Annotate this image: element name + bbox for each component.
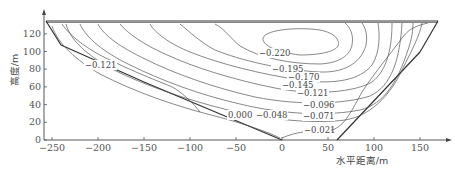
x-tick-label: 0 xyxy=(279,142,285,153)
y-tick-label: 60 xyxy=(29,81,41,92)
x-axis-arrow-icon xyxy=(446,138,452,142)
x-tick-label: −100 xyxy=(177,142,203,153)
y-axis-title: 高度/m xyxy=(9,54,20,86)
contour-label: −0.071 xyxy=(303,111,334,121)
contour-label: −0.121 xyxy=(297,88,328,98)
contour-label: −0.121 xyxy=(85,60,116,70)
y-tick-label: 80 xyxy=(29,63,41,74)
x-tick-label: −250 xyxy=(39,142,65,153)
contour-label: −0.048 xyxy=(256,110,287,120)
y-ticks: 0 20 40 60 80 100 120 xyxy=(23,28,47,145)
y-tick-label: 100 xyxy=(23,46,41,57)
contour-lines xyxy=(52,23,428,138)
contour-label: 0.000 xyxy=(228,110,252,120)
x-tick-label: 50 xyxy=(322,142,334,153)
x-tick-label: 150 xyxy=(411,142,429,153)
x-axis-title: 水平距离/m xyxy=(336,155,388,166)
x-tick-label: −50 xyxy=(226,142,246,153)
x-ticks: −250 −200 −150 −100 −50 0 50 100 150 xyxy=(39,137,429,153)
y-tick-label: 20 xyxy=(29,116,41,127)
contour-label: −0.021 xyxy=(304,125,335,135)
contour-chart: 0 20 40 60 80 100 120 高度/m −250 −200 −15… xyxy=(0,0,455,172)
y-tick-label: 40 xyxy=(29,99,41,110)
y-tick-label: 120 xyxy=(23,28,41,39)
x-tick-label: −200 xyxy=(85,142,111,153)
contour-label: −0.096 xyxy=(303,100,334,110)
x-tick-label: −150 xyxy=(131,142,157,153)
contour-label: −0.220 xyxy=(259,48,290,58)
y-axis-arrow-icon xyxy=(42,9,46,15)
x-tick-label: 100 xyxy=(365,142,383,153)
